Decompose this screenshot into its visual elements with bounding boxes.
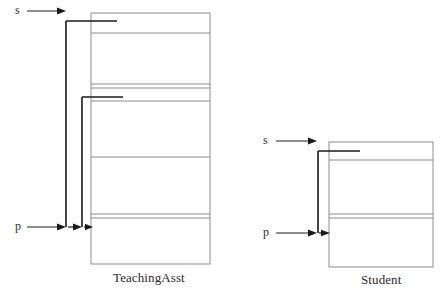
diagram-canvas: TeachingAsst Student s p s p (0, 0, 446, 298)
pointer-label-p-right: p (263, 225, 269, 240)
student-object-box (329, 142, 433, 267)
pointer-arrow-p-left-head-inner (73, 224, 82, 231)
pointer-arrow-s-left-head (57, 8, 66, 15)
pointer-arrow-s-right-head (308, 138, 317, 145)
pointer-label-s-right: s (263, 133, 268, 148)
student-box-outline (329, 142, 433, 267)
pointer-label-s-left: s (15, 3, 20, 18)
pointer-arrow-p-left (27, 224, 93, 231)
pointer-arrow-p-left-head-outer (57, 224, 66, 231)
pointer-arrow-s-left (27, 8, 66, 15)
teachingasst-object-box (91, 13, 210, 264)
object-layout-diagram (0, 0, 446, 298)
pointer-arrow-p-right (276, 230, 330, 237)
pointer-arrow-s-right (276, 138, 317, 145)
teachingasst-box-outline (91, 13, 210, 264)
student-class-label: Student (361, 272, 401, 288)
pointer-arrow-p-right-head (308, 230, 317, 237)
pointer-label-p-left: p (15, 219, 21, 234)
teachingasst-class-label: TeachingAsst (113, 270, 185, 286)
